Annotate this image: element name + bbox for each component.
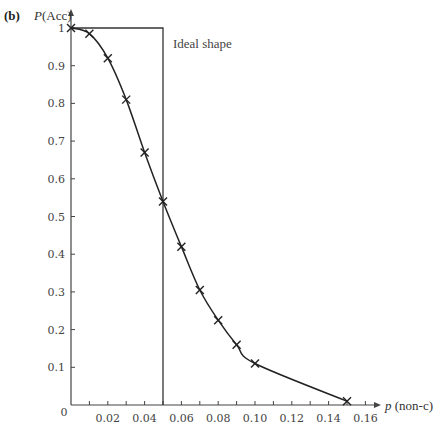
ticks: 0.020.040.060.080.100.120.140.160.10.20.… <box>48 22 378 425</box>
panel-label: (b) <box>4 8 20 23</box>
y-tick-label: 0.4 <box>48 248 66 261</box>
origin-label: 0 <box>61 406 68 419</box>
y-tick-label: 0.2 <box>48 324 66 337</box>
x-tick-label: 0.08 <box>206 412 231 425</box>
x-marker-icon <box>104 54 112 62</box>
x-marker-icon <box>214 316 222 324</box>
data-markers <box>67 24 351 405</box>
ideal-shape-line <box>71 28 163 405</box>
oc-curve-chart: 0.020.040.060.080.100.120.140.160.10.20.… <box>0 0 446 428</box>
x-tick-label: 0.02 <box>96 412 121 425</box>
ideal-shape-annotation: Ideal shape <box>173 36 232 51</box>
x-marker-icon <box>251 360 259 368</box>
y-axis-title-rest: (Acc) <box>42 8 72 23</box>
ideal-shape-path <box>71 28 163 405</box>
y-tick-label: 0.5 <box>48 211 66 224</box>
x-marker-icon <box>85 30 93 38</box>
y-tick-label: 0.9 <box>48 60 66 73</box>
x-tick-label: 0.12 <box>280 412 305 425</box>
x-tick-label: 0.06 <box>169 412 194 425</box>
x-axis-title: p (non-c) <box>384 398 433 413</box>
x-tick-label: 0.14 <box>316 412 341 425</box>
axes <box>68 9 381 408</box>
x-tick-label: 0.10 <box>243 412 268 425</box>
y-axis-title-symbol: P <box>33 8 42 23</box>
oc-curve <box>71 28 347 401</box>
x-marker-icon <box>233 341 241 349</box>
x-marker-icon <box>122 96 130 104</box>
y-tick-label: 0.1 <box>48 361 66 374</box>
x-tick-label: 0.04 <box>132 412 157 425</box>
y-tick-label: 0.8 <box>48 97 66 110</box>
y-tick-label: 1 <box>58 22 65 35</box>
x-marker-icon <box>177 243 185 251</box>
y-tick-label: 0.3 <box>48 286 66 299</box>
x-axis-title-rest: (non-c) <box>392 398 434 413</box>
y-axis-title: P(Acc) <box>33 8 72 23</box>
x-axis-arrow-icon <box>374 402 381 408</box>
x-tick-label: 0.16 <box>353 412 378 425</box>
y-tick-label: 0.7 <box>48 135 66 148</box>
y-tick-label: 0.6 <box>48 173 66 186</box>
x-marker-icon <box>141 148 149 156</box>
x-marker-icon <box>196 286 204 294</box>
oc-curve-path <box>71 28 347 401</box>
